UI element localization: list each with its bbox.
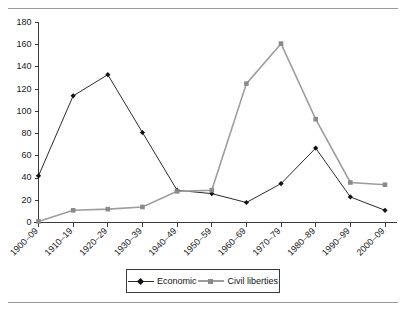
x-tick-label: 1950–59 — [181, 226, 213, 258]
data-point-civil-liberties — [36, 219, 41, 224]
y-tick-label: 100 — [16, 106, 31, 116]
line-chart: 020406080100120140160180 1900–091910–191… — [0, 10, 406, 302]
y-tick-label: 160 — [16, 39, 31, 49]
y-tick-label: 20 — [21, 195, 31, 205]
x-tick-label: 1970–79 — [251, 226, 283, 258]
y-tick-label: 0 — [26, 217, 31, 227]
legend-item-economic: Economic — [128, 277, 197, 286]
data-point-civil-liberties — [383, 182, 388, 187]
data-point-civil-liberties — [175, 189, 180, 194]
data-point-economic — [105, 72, 110, 77]
square-marker-icon — [198, 277, 224, 286]
x-tick-label: 1910–19 — [43, 226, 75, 258]
x-tick-label: 1940–49 — [147, 226, 179, 258]
data-point-economic — [140, 130, 145, 135]
figure-container: 020406080100120140160180 1900–091910–191… — [0, 0, 406, 311]
y-axis-ticks: 020406080100120140160180 — [16, 17, 38, 227]
y-tick-label: 180 — [16, 17, 31, 27]
diamond-marker-icon — [128, 277, 154, 286]
legend-item-civil-liberties: Civil liberties — [198, 277, 278, 286]
y-tick-label: 140 — [16, 61, 31, 71]
data-point-civil-liberties — [348, 180, 353, 185]
x-tick-label: 2000–09 — [355, 226, 387, 258]
data-point-civil-liberties — [209, 188, 214, 193]
y-tick-label: 40 — [21, 172, 31, 182]
x-tick-label: 1980–89 — [285, 226, 317, 258]
data-point-civil-liberties — [244, 81, 249, 86]
data-point-civil-liberties — [106, 207, 111, 212]
x-tick-label: 1930–39 — [112, 226, 144, 258]
y-tick-label: 80 — [21, 128, 31, 138]
legend-label-economic: Economic — [157, 277, 197, 286]
series-markers — [36, 41, 388, 223]
bottom-divider-rule — [8, 302, 398, 303]
data-point-economic — [71, 93, 76, 98]
data-point-civil-liberties — [279, 41, 284, 46]
top-divider-rule — [8, 8, 398, 9]
x-tick-label: 1920–29 — [77, 226, 109, 258]
data-point-economic — [244, 200, 249, 205]
x-tick-label: 1960–69 — [216, 226, 248, 258]
y-tick-label: 120 — [16, 84, 31, 94]
x-tick-label: 1990–99 — [320, 226, 352, 258]
chart-legend: Economic Civil liberties — [126, 269, 280, 293]
y-tick-label: 60 — [21, 150, 31, 160]
data-point-economic — [382, 208, 387, 213]
data-point-civil-liberties — [313, 117, 318, 122]
data-point-civil-liberties — [140, 205, 145, 210]
legend-label-civil-liberties: Civil liberties — [227, 277, 278, 286]
x-axis-ticks: 1900–091910–191920–291930–391940–491950–… — [8, 223, 386, 258]
x-tick-label: 1900–09 — [8, 226, 40, 258]
data-point-civil-liberties — [71, 208, 76, 213]
